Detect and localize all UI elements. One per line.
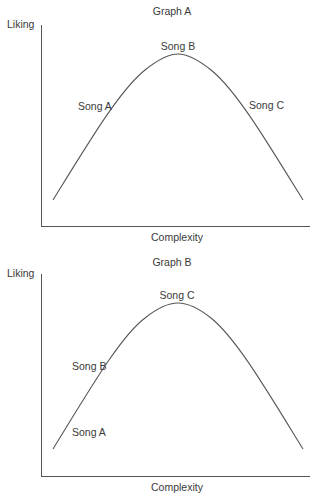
- graph-b-x-label: Complexity: [151, 481, 204, 493]
- graph-a-y-label: Liking: [7, 18, 35, 30]
- graph-a-x-label: Complexity: [151, 231, 204, 243]
- graph-a: Graph A Liking Complexity Song A Song B …: [7, 5, 310, 243]
- graph-a-title: Graph A: [153, 5, 192, 17]
- graph-a-curve: [53, 54, 303, 200]
- graph-b-song-c-label: Song C: [159, 289, 194, 301]
- figure: Graph A Liking Complexity Song A Song B …: [0, 0, 317, 498]
- graph-a-song-a-label: Song A: [78, 100, 112, 112]
- graph-b-y-label: Liking: [7, 267, 35, 279]
- graph-b-song-a-label: Song A: [72, 426, 106, 438]
- graph-b: Graph B Liking Complexity Song A Song B …: [7, 256, 310, 493]
- graph-b-title: Graph B: [152, 256, 191, 268]
- graph-a-song-b-label: Song B: [161, 40, 195, 52]
- graph-b-song-b-label: Song B: [72, 360, 106, 372]
- graph-a-song-c-label: Song C: [249, 99, 284, 111]
